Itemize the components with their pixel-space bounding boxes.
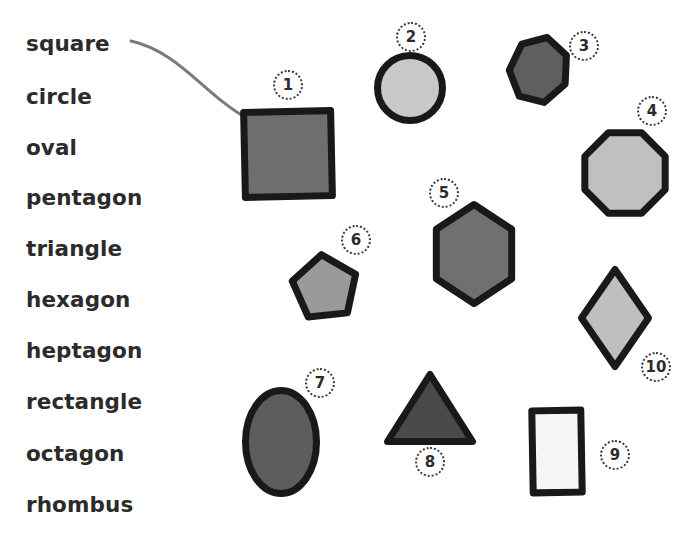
- shape-8-triangle[interactable]: [384, 371, 476, 445]
- hexagon-glyph: [436, 205, 511, 304]
- shape-number-badge-1: 1: [273, 70, 303, 100]
- shape-number-badge-7: 7: [305, 368, 335, 398]
- square-glyph: [244, 111, 333, 198]
- rhombus-glyph: [582, 270, 649, 367]
- shape-number-badge-10: 10: [641, 352, 671, 382]
- shape-5-hexagon[interactable]: [427, 201, 521, 307]
- triangle-glyph: [388, 375, 473, 442]
- shape-number-badge-2: 2: [396, 22, 426, 52]
- circle-glyph: [378, 56, 443, 121]
- shape-10-rhombus[interactable]: [578, 266, 652, 370]
- shape-4-octagon[interactable]: [578, 126, 672, 220]
- shape-number-badge-3: 3: [569, 31, 599, 61]
- shape-3-heptagon[interactable]: [498, 26, 580, 114]
- shape-6-pentagon[interactable]: [284, 247, 365, 328]
- rectangle-glyph: [532, 410, 582, 493]
- shape-number-badge-4: 4: [637, 96, 667, 126]
- shape-1-square[interactable]: [240, 107, 336, 201]
- shape-stage: 12345678910: [0, 0, 700, 534]
- shape-9-rectangle[interactable]: [528, 407, 586, 497]
- shape-7-oval[interactable]: [242, 387, 320, 497]
- octagon-glyph: [585, 133, 665, 213]
- shape-number-badge-8: 8: [415, 447, 445, 477]
- shape-number-badge-5: 5: [429, 178, 459, 208]
- heptagon-glyph: [504, 31, 575, 107]
- oval-glyph: [246, 391, 317, 494]
- shape-number-badge-6: 6: [341, 225, 371, 255]
- pentagon-glyph: [290, 251, 360, 318]
- shapes-worksheet: squarecircleovalpentagontrianglehexagonh…: [0, 0, 700, 534]
- shape-2-circle[interactable]: [374, 52, 446, 124]
- shape-number-badge-9: 9: [600, 440, 630, 470]
